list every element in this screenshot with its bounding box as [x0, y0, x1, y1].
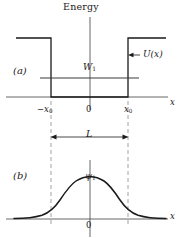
- physics-figure-finite-square-well: Energy (a) (b) W1 U(x) L ψ1 −x0 x0 0 0 x…: [0, 0, 180, 238]
- width-arrowhead-left: [51, 135, 57, 140]
- origin-label-panel-a: 0: [86, 105, 91, 114]
- x-tick-negative-x0-symbol: −x: [37, 104, 49, 114]
- origin-label-panel-b: 0: [86, 221, 91, 230]
- energy-axis-title: Energy: [63, 2, 99, 12]
- x-tick-negative-x0-subscript: 0: [49, 108, 53, 114]
- x-axis-label-panel-b: x: [170, 212, 175, 221]
- well-width-label: L: [86, 129, 92, 139]
- figure-canvas: [0, 0, 180, 238]
- energy-level-subscript: 1: [92, 65, 96, 72]
- wavefunction-subscript: 1: [92, 174, 96, 181]
- panel-a-label: (a): [13, 66, 27, 76]
- wavefunction-label: ψ1: [85, 172, 96, 181]
- energy-level-label: W1: [83, 63, 96, 72]
- x-tick-negative-x0: −x0: [37, 105, 53, 115]
- panel-b-label: (b): [13, 171, 27, 181]
- potential-function-label: U(x): [143, 50, 163, 59]
- x-tick-positive-x0-subscript: 0: [129, 108, 133, 114]
- x-tick-positive-x0: x0: [124, 105, 132, 115]
- potential-label-arrowhead: [128, 53, 134, 57]
- wavefunction-symbol: ψ: [85, 171, 92, 181]
- energy-level-symbol: W: [83, 62, 92, 72]
- x-axis-label-panel-a: x: [170, 98, 175, 107]
